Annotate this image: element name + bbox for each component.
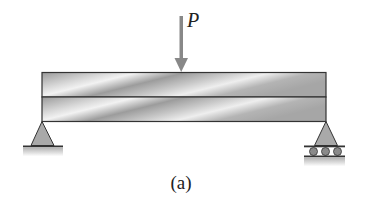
load-label: P: [186, 9, 199, 31]
roller-support-right: [304, 122, 345, 167]
beam-diagram: P (a): [0, 0, 372, 197]
roller-3: [334, 148, 342, 156]
figure-caption: (a): [170, 172, 191, 194]
beam-bottom-layer: [42, 97, 326, 122]
ground-hatch-left: [23, 147, 63, 156]
roller-2: [322, 148, 330, 156]
load-arrow: [175, 16, 189, 72]
ground-hatch-right: [304, 157, 345, 166]
beam-top-layer: [42, 73, 326, 98]
beam: [42, 73, 326, 122]
pin-support-left: [23, 122, 63, 157]
roller-1: [310, 148, 318, 156]
